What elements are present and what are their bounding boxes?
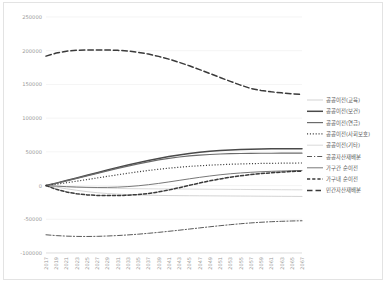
series-line-3 (46, 163, 302, 186)
x-tick-label: 2041 (166, 257, 172, 270)
legend-label-7: 가구내 순이전 (326, 175, 358, 183)
y-tick-label: 50000 (25, 149, 42, 155)
y-tick-label: -100000 (20, 250, 42, 256)
x-tick-label: 2063 (279, 257, 285, 270)
series-line-7 (46, 171, 302, 196)
x-tick-label: 2055 (238, 257, 244, 270)
x-tick-label: 2035 (135, 257, 141, 270)
x-tick-label: 2039 (156, 257, 162, 270)
x-tick-label: 2031 (115, 257, 121, 270)
x-tick-label: 2053 (227, 257, 233, 270)
x-tick-label: 2027 (94, 257, 100, 270)
y-tick-label: 100000 (22, 115, 42, 121)
x-axis-tick-labels: 2017201920212023202520272029203120332035… (43, 257, 305, 270)
legend-label-1: 공공이전(보건) (326, 107, 360, 115)
series-line-8 (46, 50, 302, 95)
y-tick-label: 250000 (22, 14, 42, 20)
series-line-1 (46, 149, 302, 186)
x-tick-label: 2029 (104, 257, 110, 270)
chart-legend: 공공이전(교육)공공이전(보건)공공이전(연금)공공이전(사회보호)공공이전(기… (307, 96, 370, 194)
x-tick-label: 2067 (299, 257, 305, 270)
x-tick-label: 2037 (145, 257, 151, 270)
x-tick-label: 2061 (268, 257, 274, 270)
legend-label-4: 공공이전(기타) (326, 141, 360, 149)
data-series-group (46, 50, 302, 237)
x-tick-label: 2025 (84, 257, 90, 270)
x-tick-label: 2065 (289, 257, 295, 270)
x-tick-label: 2023 (74, 257, 80, 270)
x-tick-label: 2021 (63, 257, 69, 270)
x-tick-label: 2033 (125, 257, 131, 270)
legend-label-2: 공공이전(연금) (326, 119, 360, 127)
legend-label-0: 공공이전(교육) (326, 96, 360, 104)
x-tick-label: 2047 (197, 257, 203, 270)
x-tick-label: 2045 (186, 257, 192, 270)
legend-label-3: 공공이전(사회보호) (326, 130, 370, 138)
x-tick-label: 2019 (53, 257, 59, 270)
y-tick-label: 0 (39, 183, 42, 189)
line-chart: -100000-50000050000100000150000200000250… (4, 3, 384, 281)
x-tick-label: 2017 (43, 257, 49, 270)
x-tick-label: 2051 (217, 257, 223, 270)
x-tick-label: 2043 (176, 257, 182, 270)
y-tick-label: -50000 (24, 216, 42, 222)
legend-label-8: 민간자산재배분 (326, 186, 361, 194)
x-tick-label: 2049 (207, 257, 213, 270)
y-tick-label: 150000 (22, 81, 42, 87)
y-tick-label: 200000 (22, 48, 42, 54)
series-line-5 (46, 221, 302, 237)
x-tick-label: 2059 (258, 257, 264, 270)
legend-label-5: 공공자산재배분 (326, 153, 361, 161)
legend-label-6: 가구간 순이전 (326, 164, 358, 172)
y-axis-tick-labels: -100000-50000050000100000150000200000250… (20, 14, 42, 256)
gridlines (46, 17, 302, 253)
chart-container: -100000-50000050000100000150000200000250… (3, 2, 383, 280)
x-tick-label: 2057 (248, 257, 254, 270)
